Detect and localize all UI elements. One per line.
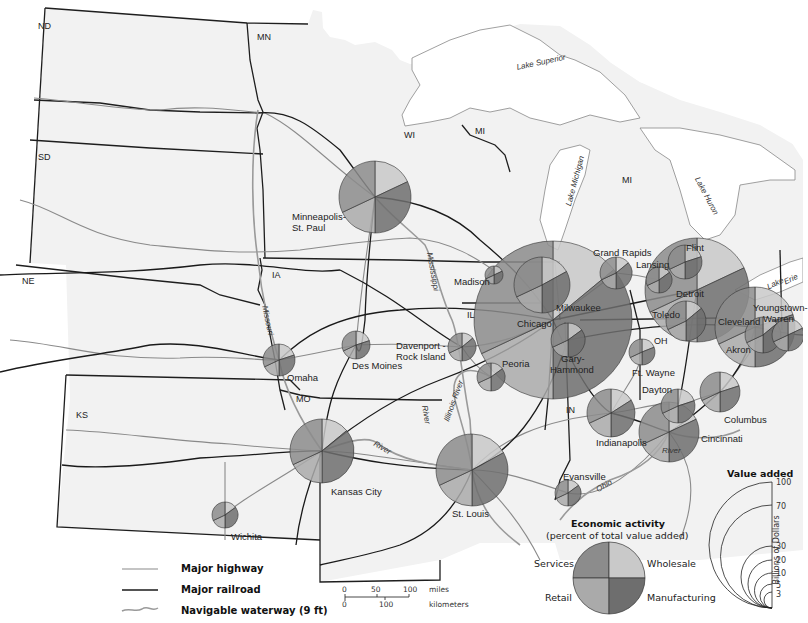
- scale-miles-0: 0: [342, 586, 347, 594]
- city-label: St. Paul: [292, 223, 325, 233]
- city-label: Kansas City: [331, 487, 382, 497]
- scale-miles-100: 100: [403, 586, 417, 594]
- city-label: Cincinnati: [701, 434, 743, 444]
- state-label: MN: [257, 33, 271, 42]
- city-label: Columbus: [724, 415, 767, 425]
- city-label: Cleveland: [718, 317, 760, 327]
- city-pie-davenport-rock-island: [448, 333, 476, 361]
- city-pie-gary-hammond: [551, 323, 585, 357]
- city-pie-lansing: [646, 267, 672, 293]
- legend-highway-label: Major highway: [181, 564, 263, 574]
- legend-wholesale: Wholesale: [647, 559, 696, 569]
- scale-km-100: 100: [379, 601, 393, 609]
- scale-bar: [345, 594, 409, 601]
- city-label: Rock Island: [396, 352, 446, 362]
- line-legend-samples: [122, 569, 158, 611]
- state-label: MI: [475, 127, 485, 136]
- scale-km-label: kilometers: [429, 601, 469, 609]
- city-pie-minneapolis-st-paul: [339, 161, 411, 233]
- scale-miles-label: miles: [429, 586, 449, 594]
- city-pie-toledo: [666, 301, 706, 341]
- city-label: Grand Rapids: [593, 248, 652, 258]
- state-label: IA: [272, 271, 281, 280]
- state-label: IN: [566, 406, 575, 415]
- state-label: MO: [296, 395, 311, 404]
- state-label: IL: [467, 311, 475, 320]
- city-label: Flint: [686, 243, 704, 253]
- legend-services: Services: [534, 559, 574, 569]
- legend-waterway-label: Navigable waterway (9 ft): [181, 606, 328, 616]
- city-label: Akron: [726, 345, 751, 355]
- city-label: Dayton: [642, 385, 672, 395]
- scale-miles-50: 50: [371, 586, 381, 594]
- city-pie-columbus: [700, 372, 740, 412]
- city-pie-peoria: [477, 363, 505, 391]
- state-label: KS: [76, 411, 88, 420]
- city-label: Toledo: [652, 310, 680, 320]
- state-label: SD: [38, 153, 51, 162]
- city-label: Indianapolis: [596, 438, 647, 448]
- legend-retail: Retail: [545, 593, 572, 603]
- city-pie-kansas-city: [290, 419, 354, 483]
- city-label: Des Moines: [352, 361, 402, 371]
- state-label: NE: [22, 277, 35, 286]
- legend-railroad-label: Major railroad: [181, 585, 261, 595]
- city-pie-ft-wayne: [629, 339, 655, 365]
- value-added-axis-label: Billions of Dollars: [773, 515, 781, 584]
- city-pie-wichita: [212, 502, 238, 528]
- city-label: Davenport -: [396, 341, 446, 351]
- city-pie-grand-rapids: [600, 257, 632, 289]
- state-label: WI: [404, 131, 415, 140]
- city-label: Peoria: [502, 359, 529, 369]
- city-label: Hammond: [550, 365, 594, 375]
- economic-activity-title: Economic activity: [571, 519, 665, 529]
- state-label: OH: [654, 337, 668, 346]
- city-label: Gary-: [561, 354, 585, 364]
- city-pie-evansville: [555, 480, 581, 506]
- city-label: St. Louis: [452, 509, 489, 519]
- value-added-tick-70: 70: [776, 503, 786, 511]
- city-pie-des-moines: [342, 331, 370, 359]
- city-label: Youngstown-: [753, 303, 808, 313]
- city-label: Minneapolis-: [292, 212, 346, 222]
- economic-activity-subtitle: (percent of total value added): [546, 531, 688, 541]
- city-label: Lansing: [636, 260, 669, 270]
- city-label: Chicago: [517, 319, 552, 329]
- city-label: Omaha: [287, 373, 318, 383]
- city-label: Warren: [763, 314, 794, 324]
- economic-activity-legend-pie: [573, 542, 645, 614]
- city-label: Evansville: [563, 472, 606, 482]
- city-label: Detroit: [676, 289, 704, 299]
- state-label: ND: [38, 22, 51, 31]
- city-pie-st-louis: [436, 434, 508, 506]
- city-label: Madison: [454, 277, 490, 287]
- waterway-sample: [122, 608, 158, 611]
- value-added-tick-3: 3: [776, 591, 781, 599]
- value-added-tick-100: 100: [776, 479, 791, 487]
- state-label: MI: [622, 176, 632, 185]
- city-pie-indianapolis: [587, 389, 635, 437]
- city-label: Ft. Wayne: [632, 368, 675, 378]
- scale-km-0: 0: [342, 601, 347, 609]
- city-label: Milwaukee: [556, 303, 601, 313]
- city-label: Wichita: [231, 532, 262, 542]
- legend-manufacturing: Manufacturing: [647, 593, 716, 603]
- water-label: River: [662, 447, 681, 455]
